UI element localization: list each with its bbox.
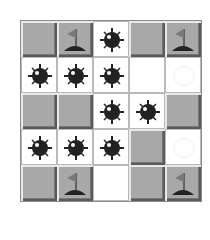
faint-circle-icon [166,58,202,94]
cell-mine[interactable] [129,93,165,129]
mine-icon [94,58,130,94]
game-board [20,20,202,202]
cell-covered[interactable] [129,129,165,165]
cell-covered[interactable] [165,93,201,129]
cell-covered[interactable] [129,165,165,201]
cell-covered[interactable] [57,93,93,129]
cell-flag[interactable] [57,21,93,57]
cell-covered[interactable] [21,93,57,129]
mine-icon [94,130,130,166]
flag-icon [57,21,93,57]
mine-icon [94,94,130,130]
mine-icon [94,22,130,58]
cell-flag[interactable] [57,165,93,201]
cell-flag[interactable] [165,165,201,201]
cell-mine[interactable] [93,93,129,129]
mine-icon [22,130,58,166]
cell-covered[interactable] [21,165,57,201]
mine-icon [58,130,94,166]
cell-faint-circle[interactable] [165,129,201,165]
cell-mine[interactable] [93,57,129,93]
mine-icon [130,94,166,130]
cell-mine[interactable] [57,129,93,165]
cell-covered[interactable] [129,21,165,57]
flag-icon [165,21,201,57]
cell-flag[interactable] [165,21,201,57]
flag-icon [57,165,93,201]
cell-mine[interactable] [57,57,93,93]
cell-faint-circle[interactable] [165,57,201,93]
cell-mine[interactable] [93,129,129,165]
faint-circle-icon [166,130,202,166]
cell-mine[interactable] [93,21,129,57]
flag-icon [165,165,201,201]
mine-icon [58,58,94,94]
cell-empty[interactable] [129,57,165,93]
cell-mine[interactable] [21,57,57,93]
cell-mine[interactable] [21,129,57,165]
cell-covered[interactable] [21,21,57,57]
cell-empty[interactable] [93,165,129,201]
mine-icon [22,58,58,94]
